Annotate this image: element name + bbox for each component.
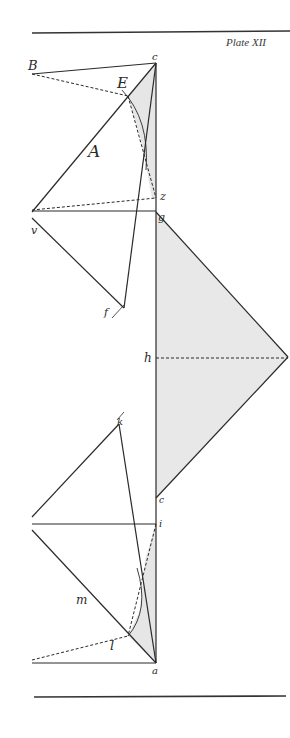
- label-m: m: [76, 593, 87, 607]
- label-g: g: [158, 211, 165, 224]
- label-f: f: [103, 306, 110, 319]
- top-rule: [32, 31, 290, 33]
- label-A: A: [86, 141, 100, 161]
- label-z: z: [159, 190, 166, 203]
- label-E: E: [116, 74, 128, 92]
- large-shaded-triangle: [156, 212, 288, 498]
- label-c-mid: c: [159, 495, 164, 505]
- label-B: B: [27, 58, 38, 73]
- label-h: h: [144, 351, 152, 365]
- label-a: a: [152, 665, 158, 676]
- bottom-rule: [34, 696, 286, 697]
- label-v: v: [31, 224, 38, 237]
- geometric-plate-diagram: Plate XII B c E A z: [0, 0, 290, 738]
- plate-title: Plate XII: [225, 36, 267, 48]
- label-l: l: [110, 638, 114, 653]
- label-c-top: c: [152, 51, 158, 62]
- label-i: i: [159, 518, 162, 529]
- label-k: k: [117, 416, 123, 427]
- upper-shaded-region: [128, 63, 156, 198]
